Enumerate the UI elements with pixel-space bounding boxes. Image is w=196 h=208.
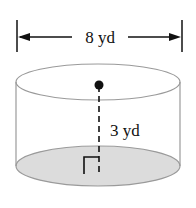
base-ellipse bbox=[16, 146, 180, 186]
diameter-label: 8 yd bbox=[85, 28, 115, 47]
center-dot bbox=[95, 81, 104, 90]
right-arrowhead-icon bbox=[169, 33, 181, 41]
diameter-dimension: 8 yd bbox=[17, 20, 182, 52]
left-arrowhead-icon bbox=[18, 33, 30, 41]
cylinder-diagram: 8 yd 3 yd bbox=[0, 0, 196, 208]
height-label: 3 yd bbox=[110, 121, 140, 140]
